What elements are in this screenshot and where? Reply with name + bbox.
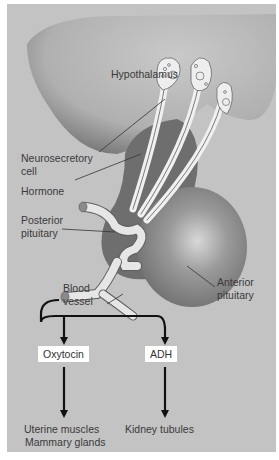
target-uterine-muscles: Uterine muscles	[24, 423, 99, 436]
target-kidney-tubules: Kidney tubules	[125, 423, 194, 436]
label-blood-vessel-2: vessel	[63, 295, 93, 308]
label-blood-vessel-1: Blood	[63, 282, 90, 295]
label-hypothalamus: Hypothalamus	[111, 68, 178, 81]
hormone-box-adh: ADH	[145, 346, 177, 362]
hormone-box-oxytocin: Oxytocin	[38, 346, 89, 362]
label-neurosecretory-cell-2: cell	[21, 165, 37, 178]
label-posterior-pituitary-1: Posterior	[21, 214, 63, 227]
target-mammary-glands: Mammary glands	[25, 436, 106, 449]
label-neurosecretory-cell-1: Neurosecretory	[21, 152, 93, 165]
label-anterior-pituitary-1: Anterior	[217, 276, 254, 289]
diagram-panel: Hypothalamus Neurosecretory cell Hormone…	[7, 4, 276, 452]
label-anterior-pituitary-2: pituitary	[217, 289, 254, 302]
label-posterior-pituitary-2: pituitary	[21, 227, 58, 240]
label-hormone: Hormone	[21, 185, 64, 198]
